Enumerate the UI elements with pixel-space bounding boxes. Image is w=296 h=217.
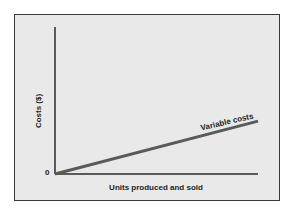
variable-costs-line bbox=[55, 121, 258, 174]
origin-label: 0 bbox=[45, 168, 49, 177]
y-axis-label: Costs ($) bbox=[34, 94, 43, 128]
x-axis-label: Units produced and sold bbox=[109, 183, 203, 192]
